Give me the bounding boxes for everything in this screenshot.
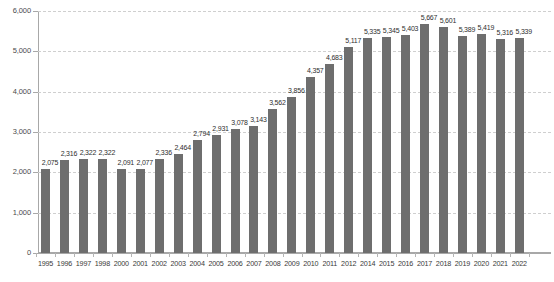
x-axis-tick — [93, 253, 94, 257]
bar[interactable] — [515, 38, 524, 253]
bar[interactable] — [325, 64, 334, 253]
bar-value-label: 5,403 — [398, 25, 422, 33]
x-axis-tick — [207, 253, 208, 257]
x-axis-tick — [339, 253, 340, 257]
bar[interactable] — [458, 36, 467, 253]
x-axis-tick — [112, 253, 113, 257]
x-axis-tick — [472, 253, 473, 257]
x-axis-tick — [358, 253, 359, 257]
y-axis-tick-label: 0 — [1, 249, 31, 257]
bar[interactable] — [363, 38, 372, 253]
bar[interactable] — [41, 169, 50, 253]
x-axis-tick — [188, 253, 189, 257]
x-axis-tick — [226, 253, 227, 257]
bar[interactable] — [401, 35, 410, 253]
bar-value-label: 3,143 — [246, 116, 270, 124]
bar[interactable] — [155, 159, 164, 253]
bar[interactable] — [268, 109, 277, 253]
x-axis-tick — [453, 253, 454, 257]
bar-chart: 01,0002,0003,0004,0005,0006,000 2,0752,3… — [0, 0, 554, 282]
x-axis-tick — [55, 253, 56, 257]
x-axis-tick — [74, 253, 75, 257]
bar-value-label: 2,077 — [133, 159, 157, 167]
x-axis-tick — [377, 253, 378, 257]
x-axis-tick — [434, 253, 435, 257]
bar[interactable] — [420, 24, 429, 253]
bar-value-label: 5,339 — [512, 28, 536, 36]
bar[interactable] — [344, 47, 353, 253]
x-axis-tick — [302, 253, 303, 257]
x-axis-tick — [510, 253, 511, 257]
bar-value-label: 5,601 — [436, 17, 460, 25]
bar-value-label: 3,562 — [265, 99, 289, 107]
bar-value-label: 5,117 — [341, 37, 365, 45]
gridline — [38, 11, 551, 12]
gridline — [38, 253, 551, 254]
bar[interactable] — [231, 129, 240, 253]
x-axis-tick — [169, 253, 170, 257]
x-axis-tick — [529, 253, 530, 257]
gridline — [38, 51, 551, 52]
bar[interactable] — [98, 159, 107, 253]
bar-value-label: 4,357 — [303, 67, 327, 75]
bar[interactable] — [496, 39, 505, 253]
bar-value-label: 2,322 — [95, 149, 119, 157]
x-axis-tick — [245, 253, 246, 257]
bar[interactable] — [212, 135, 221, 253]
bar[interactable] — [306, 77, 315, 253]
bar[interactable] — [439, 27, 448, 253]
bar[interactable] — [193, 140, 202, 253]
x-axis-tick — [415, 253, 416, 257]
x-axis-tick — [283, 253, 284, 257]
y-axis-tick-label: 2,000 — [1, 168, 31, 176]
x-axis-tick — [131, 253, 132, 257]
x-axis-tick-label: 2022 — [506, 259, 532, 268]
y-axis-tick-label: 5,000 — [1, 47, 31, 55]
bar[interactable] — [136, 169, 145, 253]
plot-area: 2,0752,3162,3222,3222,0912,0772,3362,464… — [38, 11, 551, 253]
bar[interactable] — [174, 154, 183, 253]
y-axis-tick-label: 3,000 — [1, 128, 31, 136]
y-axis-tick-label: 1,000 — [1, 209, 31, 217]
y-axis-tick-label: 6,000 — [1, 7, 31, 15]
bar-value-label: 3,856 — [284, 87, 308, 95]
x-axis-tick — [491, 253, 492, 257]
bar[interactable] — [117, 169, 126, 253]
bar[interactable] — [477, 34, 486, 253]
bar[interactable] — [79, 159, 88, 253]
bar[interactable] — [382, 37, 391, 253]
x-axis-tick — [320, 253, 321, 257]
bar-value-label: 2,464 — [171, 144, 195, 152]
x-axis-tick — [150, 253, 151, 257]
x-axis-tick — [36, 253, 37, 257]
bar-value-label: 4,683 — [322, 54, 346, 62]
x-axis-tick — [396, 253, 397, 257]
bar[interactable] — [287, 97, 296, 253]
bar-value-label: 2,075 — [38, 159, 62, 167]
bar[interactable] — [60, 160, 69, 253]
bar[interactable] — [249, 126, 258, 253]
y-axis-tick-label: 4,000 — [1, 88, 31, 96]
x-axis-tick — [264, 253, 265, 257]
